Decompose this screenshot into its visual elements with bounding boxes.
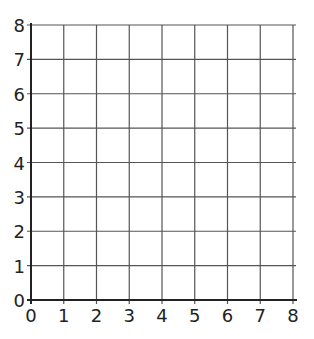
y-tick-label: 5 bbox=[14, 118, 25, 139]
y-tick-label: 8 bbox=[14, 15, 25, 36]
y-axis-tick-labels: 012345678 bbox=[14, 15, 25, 311]
x-tick-label: 1 bbox=[58, 305, 69, 326]
x-tick-label: 8 bbox=[287, 305, 298, 326]
x-tick-label: 4 bbox=[156, 305, 167, 326]
x-tick-label: 6 bbox=[222, 305, 233, 326]
y-tick-label: 0 bbox=[14, 290, 25, 311]
y-tick-label: 7 bbox=[14, 49, 25, 70]
x-tick-label: 2 bbox=[91, 305, 102, 326]
x-tick-label: 0 bbox=[25, 305, 36, 326]
grid-lines bbox=[27, 25, 296, 304]
coordinate-grid: 012345678 012345678 bbox=[0, 0, 314, 339]
y-tick-label: 2 bbox=[14, 221, 25, 242]
y-tick-label: 3 bbox=[14, 187, 25, 208]
x-tick-label: 5 bbox=[189, 305, 200, 326]
x-axis-tick-labels: 012345678 bbox=[25, 305, 298, 326]
y-tick-label: 4 bbox=[14, 153, 25, 174]
y-tick-label: 6 bbox=[14, 84, 25, 105]
x-tick-label: 3 bbox=[124, 305, 135, 326]
y-tick-label: 1 bbox=[14, 256, 25, 277]
x-tick-label: 7 bbox=[255, 305, 266, 326]
